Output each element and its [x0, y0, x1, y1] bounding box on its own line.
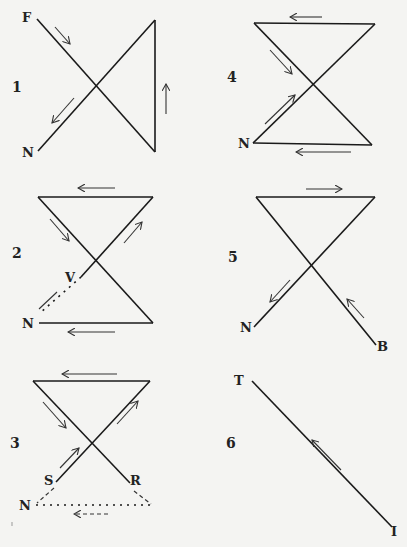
- label-n: N: [238, 136, 250, 151]
- arrow-icon: [265, 95, 295, 124]
- figure-3: 3 S R N: [10, 374, 153, 526]
- arrow-icon: [43, 402, 66, 428]
- label-b: B: [377, 339, 388, 354]
- label-n: N: [240, 320, 252, 335]
- label-n: N: [19, 498, 31, 513]
- label-f: F: [22, 10, 32, 25]
- figure-6: 6 T I: [226, 373, 397, 539]
- label-s: S: [44, 473, 53, 488]
- figure-2: 2 V N: [12, 188, 153, 332]
- figure-4: 4 N: [227, 17, 375, 152]
- figure-5: 5 N B: [228, 189, 388, 354]
- arrow-icon: [50, 219, 69, 241]
- label-n: N: [22, 145, 34, 160]
- figure-number: 2: [12, 245, 22, 261]
- label-t: T: [234, 373, 244, 388]
- arrow-icon: [52, 98, 74, 123]
- figure-number: 5: [228, 249, 238, 265]
- diagram-canvas: 1 F N 2 V N 3 S R N: [0, 0, 407, 547]
- figure-number: 4: [227, 69, 237, 85]
- figure-1: 1 F N: [12, 10, 166, 160]
- figure-number: 3: [10, 435, 20, 451]
- figure-number: 1: [12, 79, 22, 95]
- arrow-icon: [270, 50, 292, 74]
- figure-number: 6: [226, 435, 236, 451]
- arrow-icon: [347, 299, 364, 318]
- label-r: R: [130, 473, 141, 488]
- label-n: N: [22, 316, 34, 331]
- arrow-icon: [312, 440, 341, 470]
- arrow-icon: [60, 448, 79, 468]
